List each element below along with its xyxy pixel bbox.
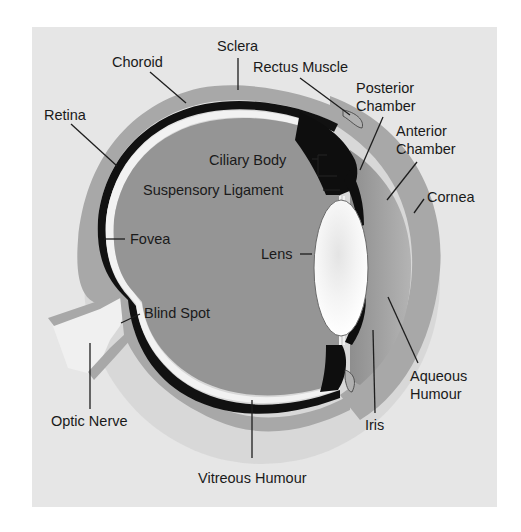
label-ciliary-body: Ciliary Body (209, 152, 287, 168)
label-retina: Retina (44, 107, 87, 123)
label-blind-spot: Blind Spot (144, 305, 210, 321)
label-sclera: Sclera (217, 38, 259, 54)
label-aqueous-humour: Aqueous (410, 368, 467, 384)
lens (314, 200, 368, 336)
label-suspensory-ligament: Suspensory Ligament (143, 182, 283, 198)
label-vitreous-humour: Vitreous Humour (198, 470, 307, 486)
label-anterior-chamber-2: Chamber (396, 141, 456, 157)
label-choroid: Choroid (112, 54, 163, 70)
label-rectus-muscle: Rectus Muscle (253, 59, 348, 75)
label-fovea: Fovea (130, 231, 171, 247)
label-posterior-chamber-2: Chamber (356, 98, 416, 114)
label-lens: Lens (261, 246, 292, 262)
label-posterior-chamber: Posterior (356, 80, 414, 96)
label-iris: Iris (365, 417, 384, 433)
label-anterior-chamber: Anterior (396, 123, 447, 139)
eye-diagram: Sclera Choroid Rectus Muscle Posterior C… (0, 0, 521, 532)
label-aqueous-humour-2: Humour (410, 386, 462, 402)
label-optic-nerve: Optic Nerve (51, 413, 128, 429)
label-cornea: Cornea (427, 189, 475, 205)
